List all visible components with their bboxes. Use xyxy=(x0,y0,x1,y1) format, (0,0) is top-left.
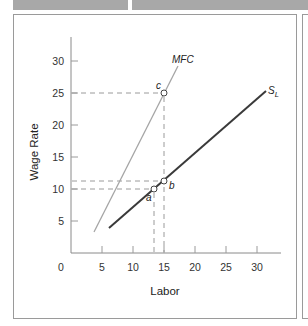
y-axis-title: Wage Rate xyxy=(28,123,40,180)
point-b-marker xyxy=(161,178,167,184)
x-tick-label: 20 xyxy=(189,261,201,273)
point-c-label: c xyxy=(156,80,161,91)
x-ticks xyxy=(102,246,257,253)
x-tick-label: 5 xyxy=(99,261,105,273)
y-tick-label: 5 xyxy=(58,215,64,227)
labor-supply-curve xyxy=(109,91,266,228)
y-ticks xyxy=(71,61,78,221)
origin-label: 0 xyxy=(58,261,64,273)
point-a-marker xyxy=(151,186,157,192)
x-tick-label: 25 xyxy=(220,261,232,273)
sl-label: SL xyxy=(268,85,279,99)
x-axis-title: Labor xyxy=(150,285,180,297)
x-tick-label: 15 xyxy=(158,261,170,273)
y-tick-label: 20 xyxy=(52,119,64,131)
y-tick-label: 30 xyxy=(52,55,64,67)
mfc-label: MFC xyxy=(172,54,194,65)
point-c-marker xyxy=(161,90,167,96)
x-tick-label: 30 xyxy=(251,261,263,273)
y-tick-label: 15 xyxy=(52,151,64,163)
reference-lines xyxy=(72,93,164,252)
point-a-label: a xyxy=(146,192,152,203)
labor-market-chart: 30 25 20 15 10 5 0 5 10 15 20 25 30 Labo… xyxy=(0,0,308,326)
point-b-label: b xyxy=(169,180,175,191)
y-tick-label: 10 xyxy=(52,183,64,195)
x-tick-label: 10 xyxy=(127,261,139,273)
sl-label-subscript: L xyxy=(275,90,279,99)
y-tick-label: 25 xyxy=(52,87,64,99)
